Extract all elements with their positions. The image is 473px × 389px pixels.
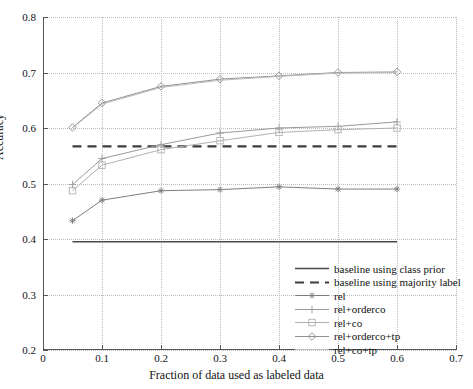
series-path bbox=[73, 72, 398, 128]
series-path bbox=[73, 128, 398, 191]
marker-star bbox=[394, 186, 400, 192]
x-tick-label: 0.2 bbox=[154, 352, 168, 364]
legend-key-none-icon bbox=[294, 276, 330, 289]
marker-plus bbox=[216, 129, 224, 137]
figure-canvas: 00.10.20.30.40.50.60.7 0.20.30.40.50.60.… bbox=[0, 0, 473, 389]
x-tick-label: 0.3 bbox=[213, 352, 227, 364]
y-tick-label: 0.8 bbox=[8, 11, 36, 23]
legend-label: rel+co+tp bbox=[330, 344, 377, 356]
legend-item[interactable]: baseline using class prior bbox=[294, 262, 470, 276]
marker-plus bbox=[308, 305, 316, 313]
legend-item[interactable]: rel+co bbox=[294, 316, 470, 330]
y-tick-label: 0.3 bbox=[8, 289, 36, 301]
legend-key-none-icon bbox=[294, 262, 330, 275]
legend-label: rel+co bbox=[330, 317, 362, 329]
legend-key-star-icon bbox=[294, 289, 330, 302]
marker-star bbox=[158, 188, 164, 194]
series-path bbox=[73, 73, 398, 129]
legend-label: rel bbox=[330, 290, 346, 302]
legend-item[interactable]: baseline using majority label bbox=[294, 276, 470, 290]
y-tick bbox=[43, 350, 48, 351]
y-tick-label: 0.4 bbox=[8, 233, 36, 245]
y-tick-label: 0.5 bbox=[8, 178, 36, 190]
legend-key-none-icon bbox=[294, 343, 330, 356]
marker-star bbox=[309, 293, 315, 299]
legend-label: rel+orderco+tp bbox=[330, 330, 400, 342]
legend-item[interactable]: rel+co+tp bbox=[294, 343, 470, 357]
legend-label: baseline using majority label bbox=[330, 276, 461, 288]
x-tick-label: 0 bbox=[40, 352, 46, 364]
marker-plus bbox=[275, 124, 283, 132]
series-rel-co-tp bbox=[73, 73, 398, 129]
x-tick-label: 0.4 bbox=[272, 352, 286, 364]
chart-legend: baseline using class priorbaseline using… bbox=[294, 262, 470, 357]
page-bleed-artifact bbox=[0, 0, 473, 8]
y-axis-title: Accuracy bbox=[0, 114, 7, 160]
y-tick-label: 0.7 bbox=[8, 67, 36, 79]
marker-star bbox=[276, 184, 282, 190]
series-rel bbox=[69, 184, 400, 224]
legend-key-square-icon bbox=[294, 316, 330, 329]
y-tick-label: 0.6 bbox=[8, 122, 36, 134]
marker-star bbox=[217, 186, 223, 192]
marker-star bbox=[335, 186, 341, 192]
series-rel-orderco bbox=[69, 118, 401, 188]
y-tick-label: 0.2 bbox=[8, 344, 36, 356]
marker-star bbox=[69, 217, 75, 223]
legend-item[interactable]: rel+orderco+tp bbox=[294, 330, 470, 344]
series-rel-co bbox=[69, 125, 400, 194]
legend-key-diamond-icon bbox=[294, 330, 330, 343]
legend-label: rel+orderco bbox=[330, 303, 385, 315]
legend-item[interactable]: rel+orderco bbox=[294, 303, 470, 317]
legend-item[interactable]: rel bbox=[294, 289, 470, 303]
series-path bbox=[73, 187, 398, 221]
x-axis-title: Fraction of data used as labeled data bbox=[0, 368, 473, 383]
series-path bbox=[73, 122, 398, 185]
legend-label: baseline using class prior bbox=[330, 263, 445, 275]
x-tick-label: 0.1 bbox=[95, 352, 109, 364]
legend-key-plus-icon bbox=[294, 303, 330, 316]
marker-star bbox=[99, 197, 105, 203]
